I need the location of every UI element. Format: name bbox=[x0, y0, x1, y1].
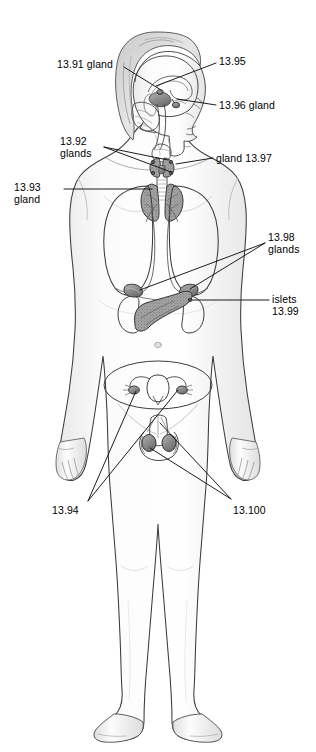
parathyroid-gland bbox=[151, 160, 154, 163]
label-13-91: 13.91 gland bbox=[57, 59, 113, 71]
label-13-99-line2: 13.99 bbox=[272, 305, 299, 317]
label-13-93-line1: 13.93 bbox=[14, 181, 41, 193]
ovary-left bbox=[129, 386, 140, 394]
label-13-99-line1: islets bbox=[272, 293, 297, 305]
testis-right bbox=[162, 435, 176, 452]
pancreatic-islets bbox=[188, 298, 192, 302]
label-13-93: 13.93gland bbox=[14, 182, 41, 205]
label-13-92-line1: 13.92 bbox=[60, 135, 87, 147]
label-13-98-line1: 13.98 bbox=[268, 231, 295, 243]
label-13-92-line2: glands bbox=[60, 147, 92, 159]
label-13-98: 13.98glands bbox=[268, 232, 300, 255]
label-13-98-line2: glands bbox=[268, 243, 300, 255]
label-13-95: 13.95 bbox=[219, 56, 246, 68]
pineal-gland bbox=[157, 90, 163, 95]
label-13-100: 13.100 bbox=[233, 505, 266, 517]
anatomy-illustration bbox=[0, 0, 316, 752]
pituitary-gland bbox=[172, 102, 179, 108]
label-13-92: 13.92glands bbox=[60, 136, 92, 159]
label-13-97: gland 13.97 bbox=[216, 153, 272, 165]
label-13-93-line2: gland bbox=[14, 193, 40, 205]
label-13-99: islets13.99 bbox=[272, 294, 299, 317]
label-13-94: 13.94 bbox=[52, 505, 79, 517]
testis-left bbox=[142, 435, 156, 452]
label-13-96: 13.96 gland bbox=[219, 100, 275, 112]
endocrine-system-figure: 13.91 gland 13.95 13.96 gland 13.92gland… bbox=[0, 0, 316, 752]
